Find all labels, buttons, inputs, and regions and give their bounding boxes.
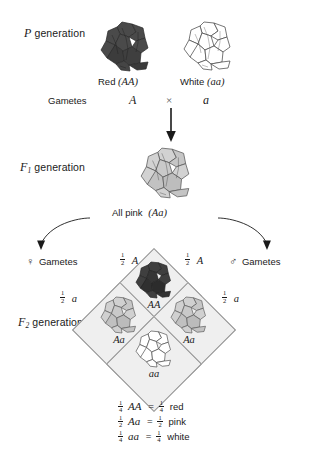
- female-gametes-text: Gametes: [39, 256, 78, 267]
- gamete-header-side-left: 1 2 a: [60, 288, 77, 306]
- punnett-label-aa: aa: [132, 368, 176, 379]
- fraction-half-3: 1 2: [60, 290, 65, 304]
- ratio-phenotype-white: white: [167, 431, 189, 442]
- fraction-numerator: 1: [156, 430, 161, 437]
- male-gametes-label: ♂ Gametes: [229, 256, 280, 267]
- ratio-equals-3: =: [146, 431, 152, 442]
- male-gametes-text: Gametes: [242, 256, 281, 267]
- fraction-numerator: 1: [118, 400, 123, 407]
- gamete-header-side-right: 1 2 a: [222, 288, 239, 306]
- female-gametes-label: ♀ Gametes: [26, 256, 77, 267]
- p-parent-red-genotype: (AA): [118, 76, 138, 87]
- gametes-row-label: Gametes: [48, 95, 87, 106]
- gamete-allele-side-right: a: [234, 293, 239, 304]
- fraction-denominator: 4: [118, 436, 123, 444]
- ratio-line-white: 1 4 aa = 1 4 white: [118, 426, 189, 444]
- f1-offspring-text: All pink: [112, 207, 143, 218]
- f1-offspring-genotype: (Aa): [148, 207, 167, 218]
- p-parent-white-flower: [180, 18, 236, 74]
- punnett-square: AA Aa: [86, 262, 222, 398]
- p-parent-red-caption: Red (AA): [98, 76, 138, 87]
- p-parent-white-caption: White (aa): [180, 76, 224, 87]
- female-symbol-icon: ♀: [26, 255, 34, 267]
- fraction-numerator: 1: [222, 290, 227, 297]
- fraction-denominator: 2: [222, 297, 227, 305]
- fraction-numerator: 1: [60, 290, 65, 297]
- fraction-denominator: 4: [156, 436, 161, 444]
- fraction-half-4: 1 2: [222, 290, 227, 304]
- gamete-right-a: a: [203, 93, 209, 108]
- fraction-numerator: 1: [118, 430, 123, 437]
- ratio-fraction-left-3: 1 4: [118, 430, 123, 444]
- ratio-fraction-right-3: 1 4: [156, 430, 161, 444]
- fraction-numerator: 1: [118, 415, 123, 422]
- p-parent-red-name: Red: [98, 76, 115, 87]
- fraction-numerator: 1: [157, 415, 162, 422]
- ratio-genotype-aa: aa: [128, 430, 139, 442]
- punnett-flower-aa: [133, 328, 175, 370]
- gamete-left-A: A: [129, 93, 136, 108]
- f1-offspring-caption: All pink (Aa): [110, 207, 169, 218]
- f1-generation-label: F1 generation: [20, 160, 85, 175]
- f2-generation-label-sub: 2: [25, 321, 29, 330]
- p-generation-label: P generation: [24, 26, 85, 41]
- p-parent-red-flower: [96, 18, 154, 74]
- cross-symbol: ×: [166, 94, 172, 106]
- f1-generation-label-sub: 1: [27, 166, 31, 175]
- fraction-numerator: 1: [185, 252, 190, 259]
- fraction-numerator: 1: [120, 252, 125, 259]
- p-parent-white-name: White: [180, 76, 204, 87]
- cross-arrow-down: [158, 108, 184, 144]
- fraction-denominator: 2: [60, 297, 65, 305]
- gamete-allele-side-left: a: [72, 293, 77, 304]
- f1-generation-label-text: generation: [34, 161, 85, 173]
- fraction-numerator: 1: [159, 400, 164, 407]
- p-generation-label-text: generation: [34, 27, 85, 39]
- male-symbol-icon: ♂: [229, 255, 237, 267]
- p-parent-white-genotype: (aa): [207, 76, 225, 87]
- p-generation-label-italic: P: [24, 26, 31, 40]
- f1-pink-flower: [137, 144, 195, 202]
